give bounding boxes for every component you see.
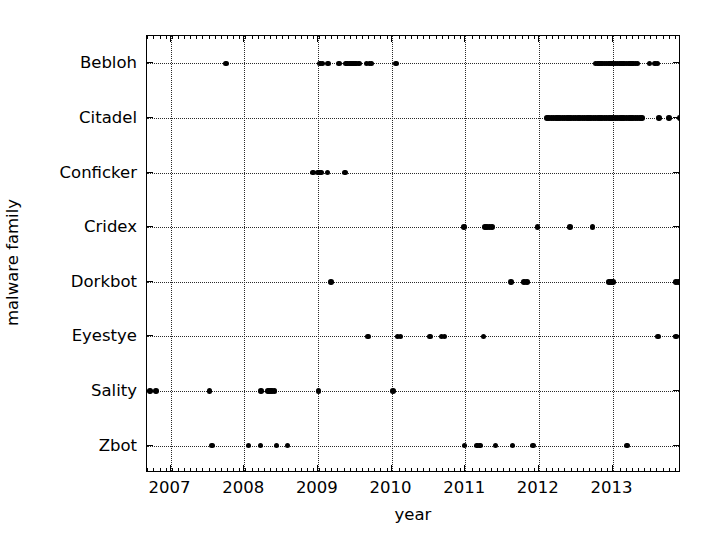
x-axis-tick-minor	[178, 468, 179, 472]
x-axis-tick-minor-top	[485, 35, 486, 39]
x-axis-tick-minor	[607, 468, 608, 472]
x-axis-tick-minor-top	[607, 35, 608, 39]
y-axis-label: malware family	[3, 199, 22, 326]
x-axis-tick-minor-top	[423, 35, 424, 39]
x-tick-label: 2007	[149, 478, 191, 497]
x-axis-tick-minor	[344, 468, 345, 472]
y-axis-tick-right	[673, 445, 680, 446]
x-axis-tick-minor-top	[571, 35, 572, 39]
data-point	[258, 388, 264, 394]
y-axis-tick	[146, 117, 153, 118]
y-axis-tick	[146, 62, 153, 63]
data-point	[318, 170, 324, 176]
x-axis-tick-minor-top	[528, 35, 529, 39]
x-axis-tick-major	[391, 465, 392, 472]
x-axis-tick-minor-top	[190, 35, 191, 39]
x-axis-tick-minor-top	[166, 35, 167, 39]
data-point	[442, 334, 448, 340]
y-axis-tick-right	[673, 62, 680, 63]
x-axis-tick-minor-top	[282, 35, 283, 39]
x-axis-tick-minor	[429, 468, 430, 472]
x-axis-tick-minor	[638, 468, 639, 472]
data-point	[390, 388, 396, 394]
x-axis-tick-minor-top	[656, 35, 657, 39]
x-axis-tick-minor-top	[331, 35, 332, 39]
x-axis-tick-minor	[436, 468, 437, 472]
data-point	[493, 443, 499, 449]
x-axis-tick-minor	[626, 468, 627, 472]
x-axis-tick-minor	[319, 468, 320, 472]
data-point	[328, 279, 334, 285]
x-axis-tick-minor	[509, 468, 510, 472]
x-axis-tick-minor-top	[442, 35, 443, 39]
x-axis-tick-minor	[644, 468, 645, 472]
x-axis-tick-minor	[583, 468, 584, 472]
data-point	[246, 443, 252, 449]
data-point	[639, 115, 645, 121]
data-point	[510, 443, 516, 449]
x-axis-tick-minor	[368, 468, 369, 472]
x-axis-tick-minor	[245, 468, 246, 472]
x-axis-tick-minor	[564, 468, 565, 472]
data-point	[655, 61, 661, 67]
y-tick-label-citadel: Citadel	[79, 107, 137, 126]
x-axis-tick-minor-top	[491, 35, 492, 39]
x-axis-tick-minor-top	[153, 35, 154, 39]
data-point	[524, 279, 530, 285]
y-axis-tick-right	[673, 281, 680, 282]
x-axis-tick-minor-top	[276, 35, 277, 39]
x-tick-label: 2008	[222, 478, 264, 497]
x-axis-tick-minor	[663, 468, 664, 472]
x-axis-tick-minor	[558, 468, 559, 472]
data-point	[666, 115, 672, 121]
x-axis-tick-major	[538, 465, 539, 472]
y-tick-label-zbot: Zbot	[99, 435, 137, 454]
x-axis-tick-minor-top	[288, 35, 289, 39]
data-point	[369, 61, 375, 67]
x-axis-tick-minor	[405, 468, 406, 472]
x-axis-tick-minor-top	[675, 35, 676, 39]
data-point	[530, 443, 536, 449]
x-axis-tick-minor	[325, 468, 326, 472]
data-point	[272, 388, 278, 394]
x-axis-tick-minor-top	[147, 35, 148, 39]
x-axis-tick-minor-top	[301, 35, 302, 39]
x-axis-tick-minor	[282, 468, 283, 472]
x-axis-tick-minor-top	[295, 35, 296, 39]
x-axis-tick-major-top	[391, 35, 392, 42]
x-axis-tick-minor-top	[356, 35, 357, 39]
x-axis-tick-minor	[442, 468, 443, 472]
x-axis-tick-minor-top	[227, 35, 228, 39]
x-axis-tick-major-top	[243, 35, 244, 42]
x-axis-tick-minor	[632, 468, 633, 472]
x-axis-tick-minor	[534, 468, 535, 472]
x-tick-label: 2009	[296, 478, 338, 497]
x-axis-tick-minor-top	[252, 35, 253, 39]
x-axis-tick-minor	[656, 468, 657, 472]
y-axis-tick-right	[673, 335, 680, 336]
x-axis-tick-minor-top	[650, 35, 651, 39]
x-axis-tick-minor-top	[663, 35, 664, 39]
x-axis-tick-major	[612, 465, 613, 472]
x-tick-label: 2010	[370, 478, 412, 497]
x-axis-tick-minor	[356, 468, 357, 472]
data-point	[655, 334, 661, 340]
data-point	[656, 115, 662, 121]
x-axis-tick-minor	[350, 468, 351, 472]
x-axis-tick-minor-top	[160, 35, 161, 39]
x-axis-tick-minor-top	[344, 35, 345, 39]
x-axis-tick-minor	[288, 468, 289, 472]
x-axis-tick-minor-top	[350, 35, 351, 39]
x-axis-tick-minor-top	[503, 35, 504, 39]
x-axis-tick-minor	[417, 468, 418, 472]
x-axis-tick-minor-top	[405, 35, 406, 39]
data-point	[489, 224, 495, 230]
x-axis-tick-minor	[153, 468, 154, 472]
x-axis-tick-minor-top	[399, 35, 400, 39]
x-axis-tick-minor	[571, 468, 572, 472]
x-axis-tick-minor	[190, 468, 191, 472]
x-axis-tick-minor	[595, 468, 596, 472]
x-axis-tick-minor	[374, 468, 375, 472]
data-point	[153, 388, 159, 394]
x-axis-tick-minor-top	[233, 35, 234, 39]
